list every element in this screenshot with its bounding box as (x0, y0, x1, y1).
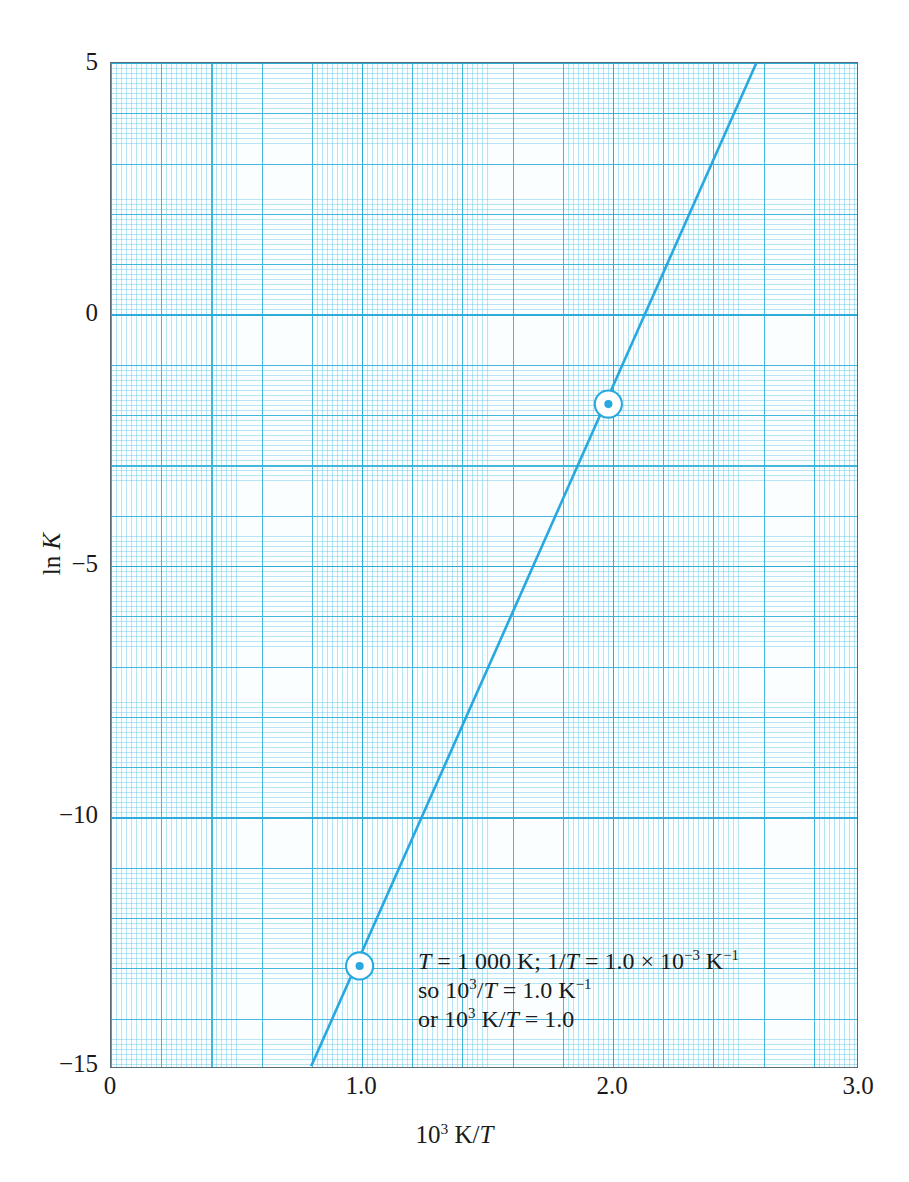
x-axis-title-base: 10 (416, 1121, 441, 1148)
trend-line (311, 63, 756, 1066)
annotation-l2-var-T: T (483, 977, 496, 1003)
data-point-marker-low (346, 952, 373, 979)
annotation-line-3: or 103 K/T = 1.0 (418, 1005, 739, 1034)
x-tick-label-3: 3.0 (833, 1072, 883, 1100)
x-tick-label-1: 1.0 (336, 1072, 386, 1100)
x-tick-label-0: 0 (85, 1072, 135, 1100)
annotation-l3-text-c: = 1.0 (519, 1006, 575, 1032)
y-axis-title: ln K (38, 494, 66, 614)
annotation-l1-exp-1: −3 (684, 947, 700, 963)
plot-area: T = 1 000 K; 1/T = 1.0 × 10−3 K−1 so 103… (110, 62, 858, 1068)
annotation-l2-exp-2: −1 (576, 976, 592, 992)
annotation-l3-text-a: or 10 (418, 1006, 468, 1032)
van-t-hoff-plot-figure: T = 1 000 K; 1/T = 1.0 × 10−3 K−1 so 103… (0, 0, 909, 1182)
x-axis-title: 103 K/T (0, 1120, 909, 1149)
annotation-l1-exp-2: −1 (723, 947, 739, 963)
annotation-line-1: T = 1 000 K; 1/T = 1.0 × 10−3 K−1 (418, 947, 739, 976)
data-point-marker-high (595, 391, 622, 418)
annotation-l2-exp-1: 3 (469, 976, 476, 992)
annotation-l2-text-a: so 10 (418, 977, 469, 1003)
y-tick-label-minus-10: −10 (28, 801, 98, 829)
x-tick-label-2: 2.0 (587, 1072, 637, 1100)
annotation-l1-text-c: K (700, 948, 723, 974)
data-layer (111, 63, 857, 1066)
y-tick-label-5: 5 (38, 48, 98, 76)
annotation-l1-text-b: = 1.0 × 10 (579, 948, 684, 974)
x-axis-title-T: T (480, 1121, 494, 1148)
y-axis-title-ln: ln (38, 550, 65, 576)
y-tick-label-0: 0 (38, 299, 98, 327)
x-axis-title-unit: K/ (448, 1121, 479, 1148)
annotation-l1-var-T: T (418, 948, 431, 974)
annotation-l3-var-T: T (505, 1006, 518, 1032)
y-axis-title-K: K (38, 533, 65, 550)
annotation-block: T = 1 000 K; 1/T = 1.0 × 10−3 K−1 so 103… (418, 947, 739, 1033)
annotation-line-2: so 103/T = 1.0 K−1 (418, 976, 739, 1005)
annotation-l1-var-T2: T (566, 948, 579, 974)
annotation-l3-text-b: K/ (475, 1006, 505, 1032)
annotation-l1-text-a: = 1 000 K; 1/ (431, 948, 565, 974)
annotation-l2-text-b: = 1.0 K (497, 977, 576, 1003)
